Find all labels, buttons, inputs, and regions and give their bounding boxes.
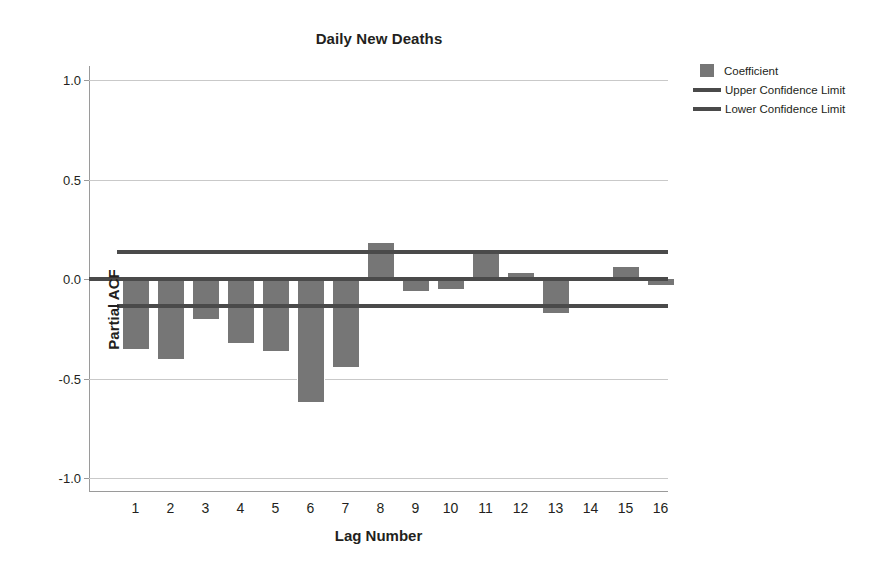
bar [262, 279, 290, 351]
x-tick-label: 2 [167, 500, 175, 516]
legend-swatch-box-icon [700, 64, 714, 77]
x-axis-title: Lag Number [89, 527, 668, 544]
bar [367, 243, 395, 279]
x-tick-label: 5 [272, 500, 280, 516]
legend-item: Lower Confidence Limit [700, 100, 885, 117]
x-tick-label: 15 [618, 500, 634, 516]
x-tick-label: 9 [412, 500, 420, 516]
legend-item: Coefficient [700, 62, 885, 79]
legend-label: Coefficient [724, 65, 778, 77]
y-axis-title: Partial ACF [105, 269, 122, 349]
bar [122, 279, 150, 349]
upper-confidence-limit-line [117, 250, 668, 254]
x-tick-label: 11 [478, 500, 493, 516]
x-tick-label: 8 [377, 500, 385, 516]
legend-swatch-line-icon [693, 88, 721, 92]
x-tick-label: 4 [237, 500, 245, 516]
x-tick-label: 1 [132, 500, 140, 516]
lower-confidence-limit-line [117, 304, 668, 308]
bar [192, 279, 220, 319]
plot-area: 1.00.50.0-0.5-1.0 1234567891011121314151… [89, 66, 668, 492]
x-tick-label: 6 [307, 500, 315, 516]
x-tick-label: 10 [443, 500, 459, 516]
acf-chart-screenshot: Daily New Deaths 1.00.50.0-0.5-1.0 12345… [0, 0, 892, 579]
x-tick-label: 7 [342, 500, 350, 516]
bar [157, 279, 185, 359]
legend-label: Lower Confidence Limit [725, 103, 845, 115]
y-tick-label: 1.0 [63, 73, 81, 88]
legend: CoefficientUpper Confidence LimitLower C… [700, 62, 885, 119]
x-tick-label: 13 [548, 500, 564, 516]
y-tick-label: 0.0 [63, 272, 81, 287]
bar [332, 279, 360, 367]
x-tick-label: 16 [653, 500, 669, 516]
page-title: Daily New Deaths [89, 30, 669, 47]
legend-label: Upper Confidence Limit [725, 84, 845, 96]
y-tick-label: -1.0 [59, 471, 81, 486]
bar [472, 253, 500, 279]
y-tick-label: -0.5 [59, 371, 81, 386]
legend-swatch-line-icon [693, 107, 721, 111]
x-tick-label: 3 [202, 500, 210, 516]
zero-baseline [89, 277, 668, 281]
y-tick-label: 0.5 [63, 172, 81, 187]
bar [227, 279, 255, 343]
x-tick-label: 14 [583, 500, 599, 516]
bar [297, 279, 325, 402]
x-tick-label: 12 [513, 500, 529, 516]
legend-item: Upper Confidence Limit [700, 81, 885, 98]
